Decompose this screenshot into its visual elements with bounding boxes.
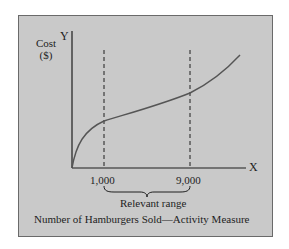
x-tick-1000: 1,000: [90, 174, 115, 186]
relevant-range-brace: [104, 186, 190, 197]
x-axis-letter: X: [249, 161, 258, 173]
y-axis-label: Cost ($): [31, 37, 61, 61]
cost-curve: [72, 55, 240, 168]
y-label-line2: ($): [31, 49, 61, 61]
y-label-line1: Cost: [31, 37, 61, 49]
relevant-range-label: Relevant range: [120, 197, 186, 209]
x-tick-9000: 9,000: [176, 174, 201, 186]
y-axis-letter: Y: [60, 30, 69, 42]
x-axis-label: Number of Hamburgers Sold—Activity Measu…: [34, 213, 249, 225]
